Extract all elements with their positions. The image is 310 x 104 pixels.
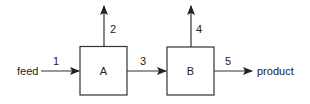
stream-4-number: 4: [196, 23, 202, 35]
feed-label: feed: [17, 65, 38, 77]
stream-3-number: 3: [140, 55, 146, 67]
unit-a-label: A: [100, 65, 108, 77]
unit-b-label: B: [187, 65, 194, 77]
product-label: product: [257, 65, 294, 77]
stream-5-number: 5: [225, 55, 231, 67]
stream-1-number: 1: [53, 55, 59, 67]
stream-2-number: 2: [110, 23, 116, 35]
process-flow-diagram: A B feed 1 2 3 4 5 product: [0, 0, 310, 104]
